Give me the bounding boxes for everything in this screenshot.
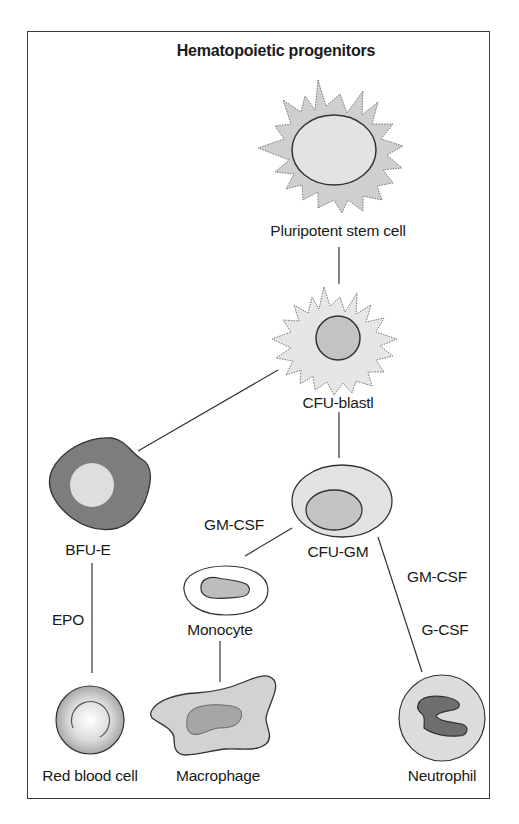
label-monocyte: Monocyte bbox=[187, 621, 253, 639]
label-cfu-gm: CFU-GM bbox=[308, 543, 369, 561]
label-pluripotent-stem-cell: Pluripotent stem cell bbox=[270, 222, 405, 240]
monocyte-cell-icon bbox=[184, 566, 268, 615]
label-neutrophil: Neutrophil bbox=[408, 767, 477, 785]
cfu-blast-cell-icon bbox=[272, 287, 397, 395]
bfu-e-cell-icon bbox=[49, 438, 150, 530]
label-red-blood-cell: Red blood cell bbox=[42, 767, 137, 785]
label-cfu-blast: CFU-blastl bbox=[302, 394, 373, 412]
diagram-title: Hematopoietic progenitors bbox=[177, 42, 376, 60]
label-factor-gm-csf-monocyte: GM-CSF bbox=[204, 516, 264, 534]
line-cfugm-to-neutrophil bbox=[378, 537, 422, 672]
label-factor-g-csf: G-CSF bbox=[421, 621, 468, 639]
label-bfu-e: BFU-E bbox=[65, 541, 111, 559]
label-factor-gm-csf-neutrophil: GM-CSF bbox=[407, 568, 467, 586]
macrophage-cell-icon bbox=[151, 676, 276, 755]
pluripotent-stem-cell-icon bbox=[258, 80, 403, 213]
label-factor-epo: EPO bbox=[52, 611, 84, 629]
red-blood-cell-icon bbox=[56, 686, 124, 754]
line-blast-to-bfue bbox=[138, 370, 278, 451]
cfu-gm-cell-icon bbox=[292, 465, 392, 537]
label-macrophage: Macrophage bbox=[176, 767, 260, 785]
diagram-canvas bbox=[0, 0, 519, 824]
neutrophil-cell-icon bbox=[399, 675, 485, 761]
